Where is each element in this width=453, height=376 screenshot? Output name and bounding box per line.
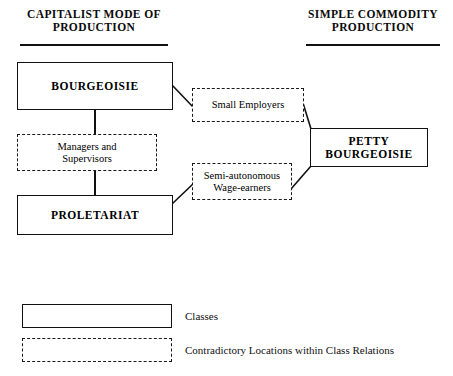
node-petty-bourgeoisie-label: PETTY BOURGEOISIE: [325, 135, 412, 161]
legend-swatch-contradictory-locations: [22, 338, 172, 362]
diagram-canvas: CAPITALIST MODE OF PRODUCTION SIMPLE COM…: [0, 0, 453, 376]
node-semi-autonomous-wage-earners-label: Semi-autonomous Wage-earners: [204, 170, 280, 194]
node-semi-autonomous-wage-earners[interactable]: Semi-autonomous Wage-earners: [192, 163, 292, 200]
capitalist-mode-heading-rule: [20, 44, 168, 46]
capitalist-mode-heading: CAPITALIST MODE OF PRODUCTION: [14, 8, 174, 34]
simple-commodity-heading-rule: [306, 44, 440, 46]
connector-bourgeoisie-managers: [94, 110, 96, 134]
legend-label-contradictory-locations: Contradictory Locations within Class Rel…: [185, 344, 394, 357]
node-proletariat-label: PROLETARIAT: [51, 209, 139, 222]
legend-label-classes: Classes: [185, 310, 218, 323]
node-bourgeoisie-label: BOURGEOISIE: [51, 80, 138, 93]
node-small-employers[interactable]: Small Employers: [192, 88, 304, 122]
node-managers-and-supervisors[interactable]: Managers and Supervisors: [17, 134, 157, 171]
node-proletariat[interactable]: PROLETARIAT: [17, 195, 173, 235]
simple-commodity-heading: SIMPLE COMMODITY PRODUCTION: [293, 8, 453, 34]
legend-swatch-classes: [22, 304, 172, 328]
node-managers-and-supervisors-label: Managers and Supervisors: [57, 141, 116, 165]
node-petty-bourgeoisie[interactable]: PETTY BOURGEOISIE: [310, 128, 428, 167]
node-small-employers-label: Small Employers: [212, 99, 285, 111]
node-bourgeoisie[interactable]: BOURGEOISIE: [17, 62, 173, 110]
connector-managers-proletariat: [94, 170, 96, 196]
